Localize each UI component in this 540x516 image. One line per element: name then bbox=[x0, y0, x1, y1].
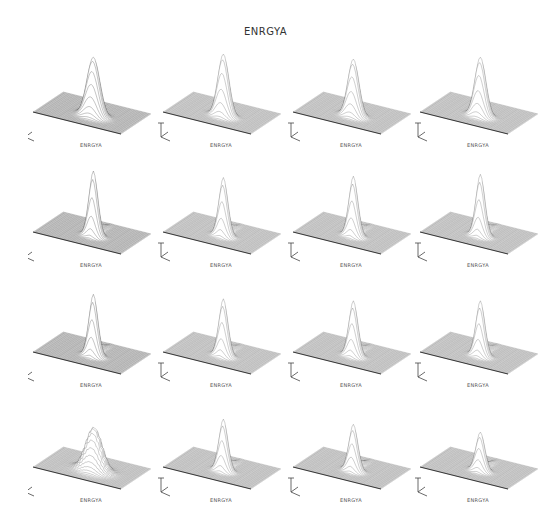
axis-triad-icon bbox=[28, 243, 34, 261]
surface-panel: ENRGYA bbox=[415, 400, 540, 510]
axis-label: ENRGYA bbox=[467, 142, 489, 148]
axis-label: ENRGYA bbox=[80, 262, 102, 268]
axis-triad-icon bbox=[415, 243, 427, 261]
surface-wireframe bbox=[288, 45, 413, 155]
surface-wireframe bbox=[158, 285, 283, 395]
surface-panel: ENRGYA bbox=[28, 285, 153, 395]
axis-triad-icon bbox=[158, 243, 170, 261]
surface-wireframe bbox=[415, 400, 540, 510]
axis-label: ENRGYA bbox=[210, 142, 232, 148]
axis-triad-icon bbox=[158, 363, 170, 381]
axis-triad-icon bbox=[158, 123, 170, 141]
axis-label: ENRGYA bbox=[467, 262, 489, 268]
surface-panel: ENRGYA bbox=[288, 400, 413, 510]
axis-label: ENRGYA bbox=[210, 382, 232, 388]
surface-panel: ENRGYA bbox=[158, 45, 283, 155]
surface-panel: ENRGYA bbox=[158, 400, 283, 510]
surface-wireframe bbox=[158, 165, 283, 275]
axis-triad-icon bbox=[28, 478, 34, 496]
axis-label: ENRGYA bbox=[80, 497, 102, 503]
surface-wireframe bbox=[288, 285, 413, 395]
axis-triad-icon bbox=[288, 243, 300, 261]
surface-panel: ENRGYA bbox=[28, 45, 153, 155]
axis-label: ENRGYA bbox=[80, 142, 102, 148]
surface-wireframe bbox=[28, 285, 153, 395]
surface-panel: ENRGYA bbox=[415, 285, 540, 395]
surface-panel: ENRGYA bbox=[415, 165, 540, 275]
axis-triad-icon bbox=[288, 363, 300, 381]
surface-wireframe bbox=[28, 400, 153, 510]
surface-wireframe bbox=[415, 165, 540, 275]
axis-label: ENRGYA bbox=[210, 497, 232, 503]
surface-wireframe bbox=[158, 400, 283, 510]
axis-triad-icon bbox=[415, 123, 427, 141]
surface-wireframe bbox=[415, 45, 540, 155]
axis-label: ENRGYA bbox=[467, 497, 489, 503]
surface-panel: ENRGYA bbox=[415, 45, 540, 155]
axis-label: ENRGYA bbox=[340, 382, 362, 388]
surface-panel: ENRGYA bbox=[288, 285, 413, 395]
axis-label: ENRGYA bbox=[467, 382, 489, 388]
axis-triad-icon bbox=[28, 363, 34, 381]
surface-wireframe bbox=[28, 45, 153, 155]
surface-wireframe bbox=[288, 400, 413, 510]
axis-label: ENRGYA bbox=[340, 262, 362, 268]
axis-label: ENRGYA bbox=[210, 262, 232, 268]
surface-wireframe bbox=[288, 165, 413, 275]
axis-triad-icon bbox=[158, 478, 170, 496]
axis-triad-icon bbox=[288, 478, 300, 496]
surface-panel: ENRGYA bbox=[288, 165, 413, 275]
surface-panel: ENRGYA bbox=[288, 45, 413, 155]
surface-wireframe bbox=[415, 285, 540, 395]
axis-label: ENRGYA bbox=[340, 497, 362, 503]
surface-wireframe bbox=[158, 45, 283, 155]
surface-panel: ENRGYA bbox=[158, 285, 283, 395]
axis-label: ENRGYA bbox=[80, 382, 102, 388]
surface-wireframe bbox=[28, 165, 153, 275]
axis-triad-icon bbox=[415, 478, 427, 496]
surface-panel: ENRGYA bbox=[28, 400, 153, 510]
surface-panel: ENRGYA bbox=[28, 165, 153, 275]
axis-triad-icon bbox=[415, 363, 427, 381]
axis-label: ENRGYA bbox=[340, 142, 362, 148]
axis-triad-icon bbox=[288, 123, 300, 141]
surface-panel: ENRGYA bbox=[158, 165, 283, 275]
axis-triad-icon bbox=[28, 123, 34, 141]
